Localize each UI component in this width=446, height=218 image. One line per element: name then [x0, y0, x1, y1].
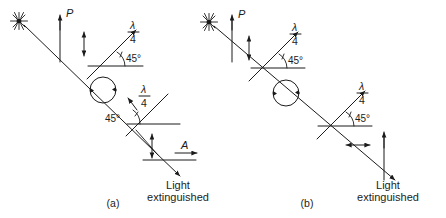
second-waveplate-angle-a: 45° [105, 113, 120, 124]
optics-figure: P λ 4 45° [0, 0, 446, 218]
diagram-canvas: P λ 4 45° [0, 0, 446, 218]
first-waveplate-angle-a: 45° [126, 53, 141, 64]
first-waveplate-lambda-a: λ [129, 19, 135, 31]
polarizer-label-b: P [238, 8, 246, 20]
panel-caption-a: (a) [107, 197, 120, 209]
result-line2-a: extinguished [147, 191, 209, 203]
result-line1-a: Light [166, 179, 190, 191]
panel-caption-b: (b) [301, 197, 314, 209]
second-waveplate-a [126, 94, 180, 136]
circular-polarization-symbol-b [273, 80, 299, 106]
second-waveplate-lambda-b: λ [358, 80, 364, 92]
second-waveplate-denominator-a: 4 [141, 97, 147, 109]
result-line2-b: extinguished [357, 191, 419, 203]
analyzer-a [143, 153, 197, 160]
circular-polarization-symbol-a [90, 77, 116, 103]
second-waveplate-angle-b: 45° [355, 113, 370, 124]
first-waveplate-denominator-a: 4 [130, 33, 136, 45]
polarizer-label-a: P [66, 7, 74, 19]
analyzer-label-a: A [180, 139, 188, 151]
optical-ray-a [24, 25, 180, 176]
first-waveplate-angle-b: 45° [288, 55, 303, 66]
panel-b: P λ 4 45° [201, 8, 419, 209]
first-waveplate-denominator-b: 4 [292, 35, 298, 47]
second-waveplate-denominator-b: 4 [359, 94, 365, 106]
panel-a: P λ 4 45° [11, 7, 209, 209]
light-source-star-a [11, 13, 28, 30]
second-waveplate-lambda-a: λ [140, 83, 146, 95]
optical-ray-b [214, 26, 395, 180]
result-line1-b: Light [376, 179, 400, 191]
first-waveplate-lambda-b: λ [291, 21, 297, 33]
light-source-star-b [201, 14, 218, 31]
